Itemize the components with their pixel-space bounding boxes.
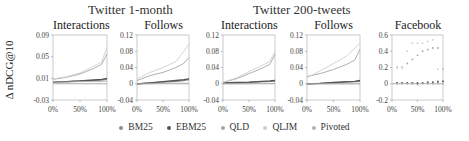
data-point (422, 50, 424, 52)
y-tick-label: 0 (129, 79, 133, 88)
y-tick-label: 0.08 (290, 47, 303, 56)
plot-panel-3: -0.0400.040.080.120%50%100% (203, 31, 283, 115)
data-point (442, 80, 444, 82)
y-tick-label: -0.04 (117, 96, 133, 105)
x-tick-label: 0% (48, 105, 58, 114)
x-tick-label: 50% (327, 105, 341, 114)
plots-svg: -0.030.010.050.090%50%100%-0.0400.040.08… (0, 0, 469, 141)
y-tick-label: 0 (299, 79, 303, 88)
y-tick-label: -0.04 (287, 96, 303, 105)
data-point (412, 83, 414, 85)
data-point (417, 42, 419, 44)
legend-label: QLD (230, 122, 250, 132)
legend-marker-icon (263, 126, 267, 130)
x-tick-label: 0% (387, 105, 397, 114)
data-point (412, 58, 414, 60)
data-point (432, 47, 434, 49)
legend-item-qljm: QLJM (263, 122, 297, 132)
y-tick-label: 0.12 (206, 31, 219, 40)
legend-item-qld: QLD (221, 122, 250, 132)
y-tick-label: 0.6 (379, 31, 389, 40)
x-tick-label: 0% (132, 105, 142, 114)
y-tick-label: 0.2 (379, 63, 389, 72)
data-point (401, 83, 403, 85)
series-line-qljm (223, 51, 275, 82)
legend-label: BM25 (128, 122, 152, 132)
series-line-qljm (137, 44, 189, 79)
plot-panel-2: -0.0400.040.080.120%50%100% (117, 31, 197, 115)
series-line-qld (223, 55, 275, 83)
series-line-qld (53, 54, 107, 79)
series-line-pivoted (223, 83, 275, 84)
plot-frame (307, 35, 360, 100)
data-point (442, 68, 444, 70)
series-line-qljm (307, 43, 360, 78)
plot-panel-4: -0.0400.040.080.120%50%100% (287, 31, 368, 115)
x-tick-label: 100% (98, 105, 116, 114)
x-tick-label: 100% (180, 105, 198, 114)
x-tick-label: 100% (266, 105, 284, 114)
x-tick-label: 50% (411, 105, 425, 114)
y-tick-label: -0.03 (33, 96, 49, 105)
y-tick-label: 0.09 (36, 31, 49, 40)
data-point (437, 68, 439, 70)
x-tick-label: 50% (242, 105, 256, 114)
data-point (422, 83, 424, 85)
y-tick-label: 0.04 (120, 63, 133, 72)
data-point (422, 42, 424, 44)
data-point (396, 67, 398, 69)
y-tick-label: 0.01 (36, 74, 49, 83)
legend-item-pivoted: Pivoted (312, 122, 350, 132)
y-tick-label: -0.2 (376, 96, 388, 105)
data-point (432, 39, 434, 41)
x-tick-label: 100% (434, 105, 452, 114)
y-tick-label: 0.08 (120, 47, 133, 56)
data-point (437, 47, 439, 49)
x-tick-label: 0% (302, 105, 312, 114)
data-point (417, 82, 419, 84)
data-point (417, 54, 419, 56)
y-tick-label: 0.4 (379, 47, 389, 56)
legend-marker-icon (167, 126, 171, 130)
data-point (437, 80, 439, 82)
series-line-qld (307, 49, 360, 76)
data-point (432, 81, 434, 83)
y-tick-label: 0 (384, 79, 388, 88)
plot-frame (392, 35, 443, 100)
data-point (406, 50, 408, 52)
legend-marker-icon (221, 126, 225, 130)
plot-frame (223, 35, 275, 100)
legend: BM25 EBM25 QLD QLJM Pivoted (0, 122, 469, 132)
y-tick-label: 0 (215, 79, 219, 88)
data-point (442, 83, 444, 85)
data-point (427, 83, 429, 85)
data-point (412, 42, 414, 44)
data-point (427, 81, 429, 83)
y-tick-label: 0.12 (120, 31, 133, 40)
legend-item-bm25: BM25 (119, 122, 152, 132)
legend-label: Pivoted (321, 122, 350, 132)
legend-marker-icon (119, 126, 123, 130)
plot-frame (53, 35, 107, 100)
x-tick-label: 100% (351, 105, 369, 114)
x-tick-label: 50% (73, 105, 87, 114)
y-tick-label: 0.04 (206, 63, 219, 72)
plot-panel-5: -0.200.20.40.60%50%100% (376, 31, 452, 115)
data-point (406, 63, 408, 65)
data-point (401, 67, 403, 69)
y-tick-label: -0.04 (203, 96, 219, 105)
y-tick-label: 0.12 (290, 31, 303, 40)
y-tick-label: 0.05 (36, 52, 49, 61)
series-line-pivoted (137, 83, 189, 84)
x-tick-label: 0% (218, 105, 228, 114)
series-line-qld (137, 57, 189, 80)
y-tick-label: 0.04 (290, 63, 303, 72)
data-point (417, 84, 419, 86)
data-point (437, 83, 439, 85)
data-point (432, 83, 434, 85)
legend-marker-icon (312, 126, 316, 130)
legend-item-ebm25: EBM25 (167, 122, 206, 132)
legend-label: QLJM (272, 122, 297, 132)
legend-label: EBM25 (176, 122, 206, 132)
y-tick-label: 0.08 (206, 47, 219, 56)
